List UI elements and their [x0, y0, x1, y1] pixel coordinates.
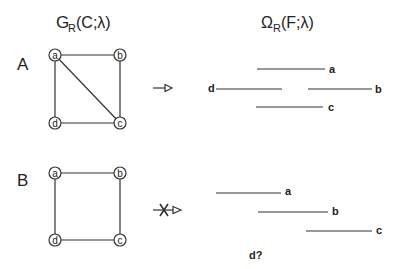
node-b: b — [114, 49, 126, 61]
diagram-canvas: G R (C;λ) Ω R (F;λ) A a b c d a d b c B — [0, 0, 395, 269]
graph-a — [55, 55, 120, 123]
node-a: a — [49, 167, 61, 179]
node-c: c — [114, 234, 126, 246]
graph-b — [55, 173, 120, 240]
interval-label-b: b — [332, 205, 339, 217]
interval-label-a: a — [285, 185, 292, 197]
intervals-a — [216, 69, 372, 107]
svg-text:(C;λ): (C;λ) — [76, 14, 111, 31]
interval-label-d: d — [208, 82, 215, 94]
interval-label-a: a — [329, 63, 336, 75]
svg-text:a: a — [52, 168, 58, 179]
node-c: c — [114, 117, 126, 129]
right-header: Ω R (F;λ) — [261, 14, 314, 34]
svg-text:c: c — [118, 235, 123, 246]
interval-label-c: c — [328, 101, 334, 113]
svg-text:a: a — [52, 50, 58, 61]
svg-text:c: c — [118, 118, 123, 129]
missing-interval-label: d? — [249, 249, 263, 261]
left-header: G R (C;λ) — [56, 13, 111, 34]
panel-b-label: B — [17, 171, 28, 190]
svg-text:d: d — [52, 235, 58, 246]
intervals-b — [216, 193, 372, 231]
not-implies-arrow-icon — [153, 204, 181, 216]
node-d: d — [49, 234, 61, 246]
panel-a-label: A — [17, 55, 29, 74]
svg-text:(F;λ): (F;λ) — [281, 14, 314, 31]
node-a: a — [49, 49, 61, 61]
node-d: d — [49, 117, 61, 129]
svg-text:d: d — [52, 118, 58, 129]
graph-b-nodes: a b c d — [49, 167, 126, 246]
svg-text:R: R — [68, 22, 76, 34]
interval-label-c: c — [376, 224, 382, 236]
svg-text:b: b — [117, 168, 123, 179]
svg-text:R: R — [273, 22, 281, 34]
node-b: b — [114, 167, 126, 179]
svg-text:Ω: Ω — [261, 14, 273, 31]
implies-arrow-icon — [153, 85, 172, 92]
interval-label-b: b — [375, 83, 382, 95]
svg-text:b: b — [117, 50, 123, 61]
